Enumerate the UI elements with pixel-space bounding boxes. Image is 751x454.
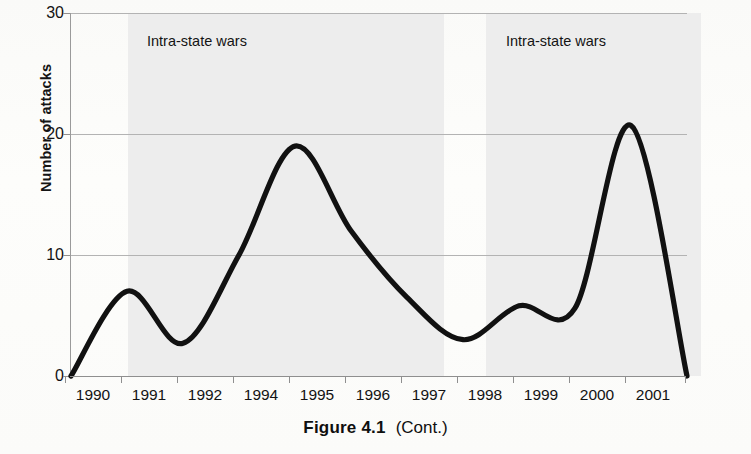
x-tick-label-1995: 1995 [300, 386, 334, 404]
figure-caption: Figure 4.1(Cont.) [0, 418, 751, 438]
x-tick-label-1992: 1992 [188, 386, 222, 404]
y-tick-label-0: 0 [24, 368, 64, 384]
y-tick-label-10: 10 [24, 247, 64, 263]
x-tick-mark-5 [345, 376, 346, 383]
y-tick-label-30: 30 [24, 5, 64, 21]
figure-caption-cont: (Cont.) [396, 418, 448, 437]
x-tick-label-2001: 2001 [636, 386, 670, 404]
y-tick-label-20: 20 [24, 126, 64, 142]
x-tick-mark-6 [401, 376, 402, 383]
x-tick-mark-7 [457, 376, 458, 383]
x-tick-label-1999: 1999 [524, 386, 558, 404]
x-tick-mark-4 [289, 376, 290, 383]
x-tick-label-1994: 1994 [244, 386, 278, 404]
x-tick-mark-8 [513, 376, 514, 383]
x-tick-label-1998: 1998 [468, 386, 502, 404]
x-axis-line [70, 376, 686, 377]
x-tick-mark-0 [65, 376, 66, 383]
attacks-line-series [71, 13, 687, 376]
x-tick-mark-end [685, 376, 686, 383]
x-tick-mark-10 [625, 376, 626, 383]
chart-figure: Number of attacks 30 20 10 0 Intra-state… [0, 0, 751, 454]
figure-page: Number of attacks 30 20 10 0 Intra-state… [0, 0, 751, 454]
x-tick-label-2000: 2000 [580, 386, 614, 404]
x-axis-tick-labels: 1990199119921994199519961997199819992000… [0, 386, 751, 410]
x-tick-mark-9 [569, 376, 570, 383]
x-tick-mark-3 [233, 376, 234, 383]
x-tick-label-1991: 1991 [132, 386, 166, 404]
plot-area: Intra-state wars Intra-state wars [70, 13, 687, 376]
x-tick-mark-2 [177, 376, 178, 383]
x-tick-label-1990: 1990 [76, 386, 110, 404]
x-tick-mark-1 [121, 376, 122, 383]
x-tick-label-1996: 1996 [356, 386, 390, 404]
x-tick-label-1997: 1997 [412, 386, 446, 404]
figure-caption-number: Figure 4.1 [303, 418, 385, 437]
